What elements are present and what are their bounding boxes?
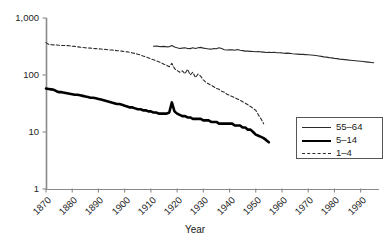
data-series-line xyxy=(46,88,269,142)
y-tick-label: 100 xyxy=(0,70,39,80)
legend-entry-1-4: 1–4 xyxy=(297,146,384,159)
legend-entry-55-64: 55–64 xyxy=(297,120,384,133)
data-series-line xyxy=(154,45,374,62)
legend-swatch-thick-line-icon xyxy=(302,134,331,146)
legend-label-55-64: 55–64 xyxy=(336,122,362,132)
legend-swatch-thin-line-icon xyxy=(302,121,331,133)
y-tick-label: 1 xyxy=(0,184,39,194)
y-tick-label: 10 xyxy=(0,127,39,137)
y-tick-label: 1,000 xyxy=(0,13,39,23)
x-axis-title: Year xyxy=(0,224,390,235)
axis-lines xyxy=(46,18,379,190)
chart-legend: 55–64 5–14 1–4 xyxy=(296,117,383,159)
legend-entry-5-14: 5–14 xyxy=(297,133,384,146)
legend-label-5-14: 5–14 xyxy=(336,135,357,145)
chart-figure: 1,000100101 1870188018901900191019201930… xyxy=(0,0,390,245)
legend-label-1-4: 1–4 xyxy=(336,148,352,158)
legend-swatch-dashed-line-icon xyxy=(302,147,331,159)
